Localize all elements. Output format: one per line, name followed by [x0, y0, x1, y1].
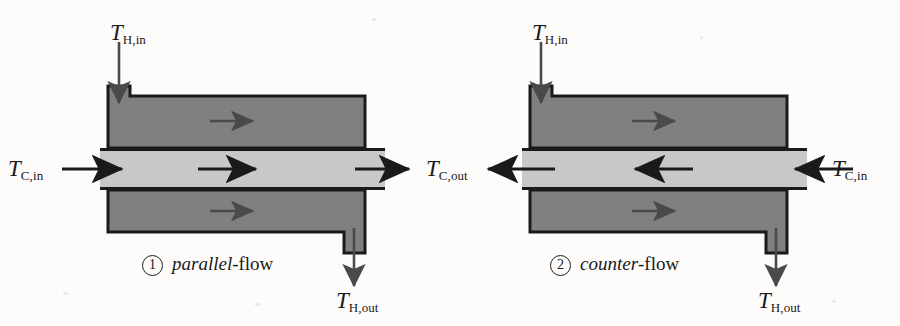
panel-number-1: 1: [142, 255, 163, 276]
hot-channel-upper: [108, 86, 365, 148]
caption-italic-part: parallel: [172, 253, 232, 274]
label-cold-in-subscript: C,in: [21, 168, 43, 183]
caption-parallel-flow: 1parallel-flow: [142, 254, 273, 276]
label-cold-in-symbol: T: [832, 156, 845, 181]
caption-upright-part: -flow: [638, 253, 679, 274]
label-hot-out: TH,out: [758, 289, 801, 314]
label-hot-in: TH,in: [110, 21, 146, 46]
panel-counter-flow: TH,in TC,out TC,in TH,out 2counter-flow: [450, 0, 900, 326]
panel-parallel-flow: TH,in TC,in TH,out 1parallel-flow: [0, 0, 450, 326]
label-hot-in-symbol: T: [110, 20, 123, 45]
hot-channel-upper: [530, 86, 787, 148]
label-cold-out-subscript: C,out: [439, 168, 468, 183]
caption-italic-part: counter: [580, 253, 638, 274]
label-hot-in-symbol: T: [532, 20, 545, 45]
label-hot-in: TH,in: [532, 21, 568, 46]
label-hot-out-subscript: H,out: [771, 300, 801, 315]
panel-number-2: 2: [550, 255, 571, 276]
label-hot-in-subscript: H,in: [545, 32, 568, 47]
caption-upright-part: -flow: [232, 253, 273, 274]
label-cold-in: TC,in: [832, 157, 867, 182]
hot-channel-lower: [530, 190, 787, 253]
label-hot-out-subscript: H,out: [349, 300, 379, 315]
hot-channel-lower: [108, 190, 365, 253]
label-cold-out-symbol: T: [426, 156, 439, 181]
label-hot-out-symbol: T: [336, 288, 349, 313]
label-hot-out: TH,out: [336, 289, 379, 314]
caption-counter-flow: 2counter-flow: [550, 254, 679, 276]
label-hot-out-symbol: T: [758, 288, 771, 313]
label-cold-in-symbol: T: [8, 156, 21, 181]
label-cold-in: TC,in: [8, 157, 43, 182]
parallel-flow-drawing: [0, 0, 450, 326]
label-cold-out: TC,out: [426, 157, 468, 182]
label-hot-in-subscript: H,in: [123, 32, 146, 47]
label-cold-in-subscript: C,in: [845, 168, 867, 183]
heat-exchanger-figure: TH,in TC,in TH,out 1parallel-flow: [0, 0, 900, 326]
